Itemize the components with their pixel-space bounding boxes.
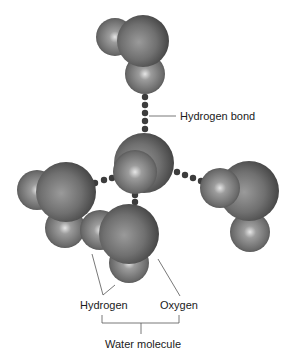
oxygen-atom — [36, 162, 96, 222]
water-hydrogen-bond-diagram: Hydrogen bond Hydrogen Oxygen Water mole… — [0, 0, 292, 360]
bond-top-center — [142, 94, 148, 132]
hydrogen-bond-label: Hydrogen bond — [180, 110, 255, 122]
oxygen-atom — [117, 15, 169, 67]
oxygen-leader — [158, 259, 180, 296]
molecule-right — [200, 161, 279, 252]
bond-left-center — [92, 175, 115, 186]
oxygen-atom — [99, 204, 159, 264]
water-molecule-bracket — [102, 315, 179, 323]
water-molecule-label: Water molecule — [105, 338, 181, 350]
hydrogen-atom — [113, 150, 157, 194]
hydrogen-leader-2 — [103, 285, 115, 295]
molecule-top — [96, 15, 169, 94]
oxygen-label: Oxygen — [160, 299, 198, 311]
hydrogen-leader-1 — [92, 254, 103, 295]
hydrogen-atom — [200, 168, 240, 208]
bond-right-center — [174, 169, 204, 184]
molecule-center — [113, 133, 174, 194]
hydrogen-label: Hydrogen — [80, 299, 128, 311]
molecule-bottom — [80, 204, 159, 283]
